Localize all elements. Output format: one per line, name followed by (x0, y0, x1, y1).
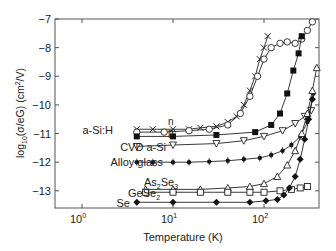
label-gese2: GeSe2 (128, 187, 160, 201)
y-tick-label: −12 (32, 156, 51, 168)
label-se: Se (117, 197, 130, 209)
label-alloy-glass: Alloy glass (110, 156, 163, 168)
label-p: p (168, 127, 174, 138)
y-tick-label: −9 (38, 70, 51, 82)
series-a-si-h-n-circles- (134, 19, 316, 136)
y-tick-label: −8 (38, 42, 51, 54)
x-axis-label: Temperature (K) (143, 231, 222, 243)
x-tick-label: 100 (70, 212, 86, 225)
label-cvd-a-si: CVD a-Si (120, 141, 166, 153)
y-tick-label: −7 (38, 13, 51, 25)
series-alloy-glass (135, 90, 316, 166)
y-axis-label: log10(σ/eG) (cm2/V) (14, 68, 28, 158)
chart: −7−8−9−10−11−12−13100101102 n a-Si:H p C… (0, 0, 336, 251)
y-tick-label: −10 (32, 99, 51, 111)
x-tick-label: 101 (161, 212, 177, 225)
label-a-si-h: a-Si:H (82, 124, 113, 136)
y-tick-label: −11 (33, 128, 51, 140)
x-tick-label: 102 (252, 212, 268, 225)
label-n: n (168, 116, 174, 127)
y-tick-label: −13 (32, 185, 51, 197)
series-a-si-h-n-crosses- (134, 33, 271, 132)
